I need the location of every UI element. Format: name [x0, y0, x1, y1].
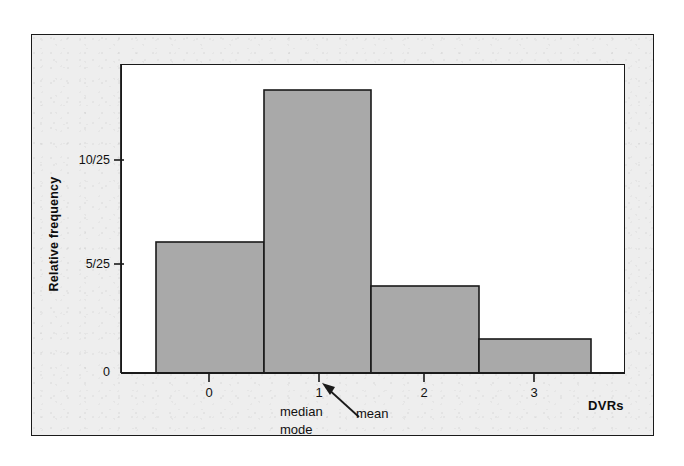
x-axis-title: DVRs: [588, 398, 624, 413]
x-tick-label-2: 2: [404, 385, 444, 400]
x-tick-label-0: 0: [189, 385, 229, 400]
y-tick-label-0: 0: [60, 365, 110, 379]
y-axis-title: Relative frequency: [47, 174, 61, 294]
bar-category-2[interactable]: [371, 286, 479, 373]
mean-annotation-label: mean: [356, 406, 389, 421]
histogram-figure: 10/25 5/25 0 Relative frequency 0 1 2 3 …: [0, 0, 684, 466]
x-tick-label-1: 1: [299, 385, 339, 400]
x-tick-label-3: 3: [514, 385, 554, 400]
chart-vector-layer: [32, 35, 655, 437]
median-annotation-label: median: [280, 404, 323, 419]
y-tick-label-5-25: 5/25: [60, 257, 110, 271]
figure-outer-frame: 10/25 5/25 0 Relative frequency 0 1 2 3 …: [31, 34, 654, 436]
bar-category-3[interactable]: [479, 339, 591, 373]
bar-category-1[interactable]: [264, 90, 371, 373]
mode-annotation-label: mode: [280, 422, 313, 437]
bar-category-0[interactable]: [156, 242, 264, 373]
y-tick-label-10-25: 10/25: [60, 153, 110, 167]
